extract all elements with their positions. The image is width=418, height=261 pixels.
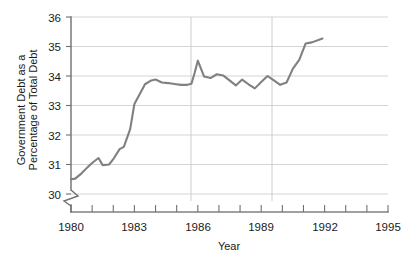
line-chart: 36 35 34 33 32 31 30 1980 1983 1986 1989…: [0, 0, 418, 261]
y-axis-title-line1: Government Debt as a: [15, 54, 27, 166]
x-axis-title: Year: [218, 240, 241, 252]
x-axis-tick-labels: 1980 1983 1986 1989 1992 1995: [58, 221, 401, 233]
x-tick-label-1980: 1980: [58, 221, 84, 233]
horizontal-gridlines: [71, 17, 388, 194]
y-tick-label-32: 32: [48, 130, 61, 142]
vertical-gridlines: [191, 17, 272, 201]
y-tick-label-35: 35: [48, 41, 61, 53]
x-axis-ticks: [71, 205, 388, 212]
y-tick-label-31: 31: [48, 159, 61, 171]
y-axis-tick-labels: 36 35 34 33 32 31 30: [48, 12, 61, 201]
y-axis-break-symbol: [64, 190, 78, 206]
chart-container: 36 35 34 33 32 31 30 1980 1983 1986 1989…: [0, 0, 418, 261]
x-tick-label-1986: 1986: [185, 221, 211, 233]
y-tick-label-33: 33: [48, 100, 61, 112]
x-tick-label-1983: 1983: [121, 221, 147, 233]
y-axis-title-line2: Percentage of Total Debt: [27, 50, 39, 171]
debt-percentage-line: [71, 39, 322, 180]
y-tick-label-36: 36: [48, 12, 61, 24]
x-tick-label-1989: 1989: [248, 221, 274, 233]
x-tick-label-1995: 1995: [375, 221, 401, 233]
y-tick-label-34: 34: [48, 71, 61, 83]
y-tick-label-30: 30: [48, 189, 61, 201]
y-axis-title: Government Debt as a Percentage of Total…: [15, 50, 39, 171]
x-tick-label-1992: 1992: [312, 221, 338, 233]
